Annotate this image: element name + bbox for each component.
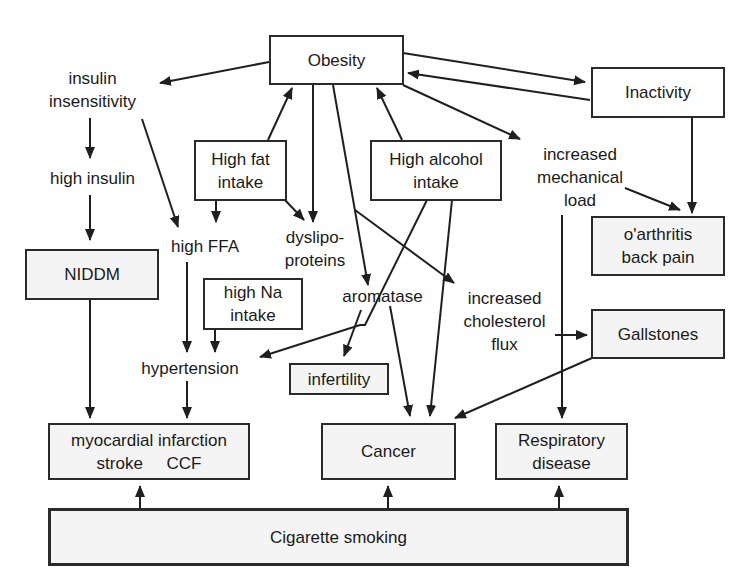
node-label: High fat xyxy=(211,148,270,171)
node-label: Obesity xyxy=(308,49,366,72)
node-obesity: Obesity xyxy=(269,35,404,85)
node-infertility: infertility xyxy=(289,363,389,395)
arrow-high-fat-to-dyslipoproteins xyxy=(285,200,304,220)
node-label: load xyxy=(564,189,596,212)
arrow-gallstones-to-cancer xyxy=(455,358,592,418)
node-cigarette-smoking: Cigarette smoking xyxy=(48,508,629,566)
node-label: NIDDM xyxy=(64,263,120,286)
arrow-high-fat-to-obesity xyxy=(268,88,292,140)
arrow-obesity-to-inactivity xyxy=(403,53,585,82)
node-aromatase: aromatase xyxy=(330,283,435,309)
node-label: Gallstones xyxy=(618,323,698,346)
node-high-ffa: high FFA xyxy=(160,232,250,260)
node-label: high insulin xyxy=(50,167,135,190)
node-respiratory-disease: Respiratory disease xyxy=(495,423,628,480)
node-label: Cigarette smoking xyxy=(270,526,407,549)
node-label: aromatase xyxy=(342,285,422,308)
node-cancer: Cancer xyxy=(321,423,456,480)
node-label: back pain xyxy=(622,246,695,269)
node-gallstones: Gallstones xyxy=(591,309,725,359)
node-hypertension: hypertension xyxy=(125,355,255,381)
node-label: stroke CCF xyxy=(97,452,202,475)
node-label: intake xyxy=(230,304,275,327)
node-label: High alcohol xyxy=(389,148,483,171)
node-insulin-insensitivity: insulin insensitivity xyxy=(30,62,155,118)
node-dyslipoproteins: dyslipo- proteins xyxy=(272,224,358,274)
node-increased-mechanical-load: increased mechanical load xyxy=(515,140,645,215)
node-high-alcohol-intake: High alcohol intake xyxy=(370,140,502,201)
node-cardiovascular-disease: myocardial infarction stroke CCF xyxy=(48,423,250,480)
node-increased-cholesterol-flux: increased cholesterol flux xyxy=(452,284,557,358)
node-high-na-intake: high Na intake xyxy=(203,278,303,330)
node-label: mechanical xyxy=(537,166,623,189)
node-label: high Na xyxy=(224,281,283,304)
node-label: disease xyxy=(532,452,591,475)
node-high-fat-intake: High fat intake xyxy=(194,140,287,201)
node-label: Respiratory xyxy=(518,429,605,452)
node-label: intake xyxy=(413,171,458,194)
node-osteoarthritis-back-pain: o'arthritis back pain xyxy=(591,216,725,276)
node-label: cholesterol xyxy=(463,310,545,333)
arrow-obesity-to-insulin-insensitivity xyxy=(160,62,269,83)
arrow-obesity-to-mechanical-load xyxy=(403,85,520,139)
node-label: insensitivity xyxy=(49,90,136,113)
node-label: hypertension xyxy=(141,357,238,380)
node-inactivity: Inactivity xyxy=(591,67,725,118)
arrow-aromatase-to-infertility xyxy=(344,310,361,356)
node-niddm: NIDDM xyxy=(25,249,159,300)
node-label: Inactivity xyxy=(625,81,691,104)
node-label: myocardial infarction xyxy=(71,429,227,452)
arrow-aromatase-to-cancer xyxy=(390,306,410,416)
node-label: dyslipo- xyxy=(286,226,345,249)
node-high-insulin: high insulin xyxy=(30,164,155,192)
node-label: Cancer xyxy=(361,440,416,463)
node-label: intake xyxy=(218,171,263,194)
node-label: proteins xyxy=(285,249,345,272)
node-label: infertility xyxy=(308,368,370,391)
arrow-high-alcohol-to-obesity xyxy=(377,88,402,140)
node-label: high FFA xyxy=(171,235,239,258)
diagram-canvas: Obesity Inactivity insulin insensitivity… xyxy=(0,0,747,587)
node-label: o'arthritis xyxy=(624,223,692,246)
node-label: increased xyxy=(468,287,542,310)
node-label: insulin xyxy=(68,67,116,90)
node-label: flux xyxy=(491,333,517,356)
node-label: increased xyxy=(543,143,617,166)
arrow-inactivity-to-obesity xyxy=(408,73,590,100)
